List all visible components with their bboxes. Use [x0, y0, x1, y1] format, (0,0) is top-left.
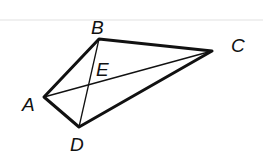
label-a: A [21, 94, 35, 115]
quadrilateral-abcd [44, 39, 212, 127]
label-b: B [91, 17, 104, 38]
label-d: D [70, 134, 84, 155]
label-e: E [96, 59, 109, 80]
kite-diagram: A B C D E [0, 0, 263, 155]
diagonal-ac [44, 51, 212, 97]
label-c: C [231, 35, 245, 56]
